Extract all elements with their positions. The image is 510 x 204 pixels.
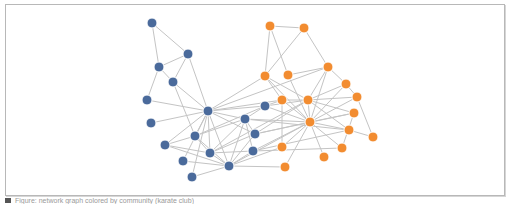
figure-caption: Figure: network graph colored by communi…	[5, 197, 194, 204]
graph-node-a1	[147, 18, 157, 28]
graph-node-a17	[260, 101, 270, 111]
graph-node-b4	[283, 70, 293, 80]
graph-node-a13	[187, 172, 197, 182]
graph-node-b16	[319, 152, 329, 162]
graph-edge	[265, 28, 304, 76]
graph-node-b10	[305, 117, 315, 127]
graph-node-b8	[277, 95, 287, 105]
graph-node-a12	[224, 161, 234, 171]
caption-marker-icon	[5, 198, 11, 203]
graph-edge	[147, 100, 208, 111]
graph-node-a5	[142, 95, 152, 105]
graph-edge	[210, 151, 253, 153]
graph-node-a14	[240, 114, 250, 124]
graph-node-a7	[146, 118, 156, 128]
graph-edges	[147, 23, 373, 177]
graph-node-b3	[260, 71, 270, 81]
graph-node-b9	[303, 95, 313, 105]
graph-edge	[152, 23, 159, 67]
graph-edge	[192, 111, 208, 177]
graph-node-b15	[337, 143, 347, 153]
graph-node-a4	[168, 77, 178, 87]
graph-node-a8	[190, 131, 200, 141]
graph-node-b14	[277, 142, 287, 152]
graph-edge	[192, 166, 229, 177]
graph-edge	[229, 166, 285, 167]
graph-node-b2	[299, 23, 309, 33]
graph-edge	[208, 111, 245, 119]
graph-node-b11	[349, 108, 359, 118]
graph-edge	[173, 82, 195, 136]
graph-node-b12	[344, 125, 354, 135]
graph-node-b7	[352, 92, 362, 102]
graph-node-a16	[248, 146, 258, 156]
graph-node-b13	[368, 132, 378, 142]
graph-node-a6	[203, 106, 213, 116]
graph-nodes	[142, 18, 378, 182]
graph-edge	[210, 100, 308, 153]
graph-edge	[288, 67, 328, 75]
graph-edge	[265, 26, 270, 76]
network-graph	[0, 0, 510, 204]
graph-edge	[308, 97, 357, 100]
graph-edge	[151, 111, 208, 123]
caption-text: Figure: network graph colored by communi…	[15, 197, 194, 204]
graph-node-a2	[183, 49, 193, 59]
graph-edge	[357, 97, 373, 137]
graph-node-a11	[178, 156, 188, 166]
graph-edge	[152, 23, 188, 54]
graph-node-a9	[160, 140, 170, 150]
graph-node-b6	[341, 79, 351, 89]
graph-node-a3	[154, 62, 164, 72]
graph-node-b17	[280, 162, 290, 172]
graph-edge	[308, 67, 328, 100]
graph-node-b1	[265, 21, 275, 31]
graph-edge	[210, 119, 245, 153]
graph-node-b5	[323, 62, 333, 72]
graph-node-a15	[250, 129, 260, 139]
graph-node-a10	[205, 148, 215, 158]
graph-edge	[304, 28, 328, 67]
